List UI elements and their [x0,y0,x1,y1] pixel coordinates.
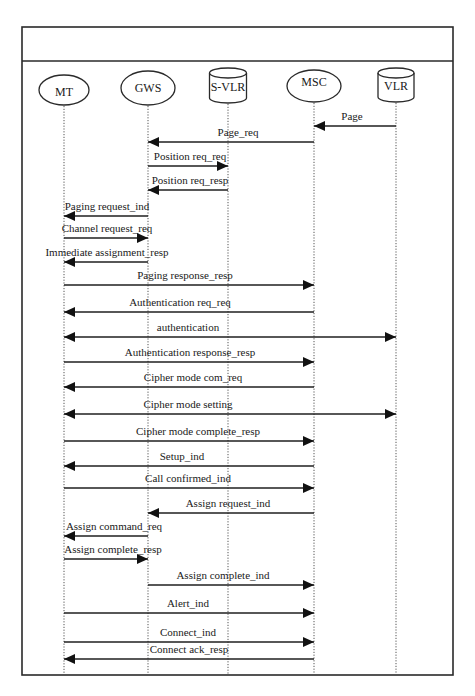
message-label: Channel request_req [62,222,153,234]
message-arrow: Channel request_req [62,222,153,243]
sequence-diagram-canvas: MTGWSS-VLRMSCVLR PagePage_reqPosition re… [0,0,475,696]
message-label: Alert_ind [167,597,210,609]
actor-label: VLR [384,79,408,93]
arrowhead-icon [385,409,396,419]
message-arrow: Paging request_ind [64,200,150,221]
message-arrow: Assign complete_resp [64,543,162,564]
message-label: Cipher mode complete_resp [136,425,261,437]
message-arrow: Authentication response_resp [64,346,314,367]
message-label: Paging request_ind [65,200,150,212]
actor-gws: GWS [121,71,175,105]
message-arrow: Page_req [148,126,314,147]
actors: MTGWSS-VLRMSCVLR [39,68,414,105]
actor-s-vlr: S-VLR [210,68,247,103]
message-arrow: Position req_resp [148,174,229,195]
arrowhead-icon [137,554,148,564]
arrowhead-icon [385,332,396,342]
arrowhead-icon [303,280,314,290]
message-label: Assign complete_resp [64,543,162,555]
message-label: Page_req [218,126,259,138]
message-arrow: Setup_ind [64,450,314,471]
arrowhead-icon [64,332,75,342]
message-label: Position req_resp [152,174,229,186]
actor-label: S-VLR [211,80,246,94]
message-label: Cipher mode com_req [144,371,243,383]
message-label: Assign request_ind [186,497,271,509]
message-arrow: Paging response_resp [64,269,314,290]
sequence-diagram: MTGWSS-VLRMSCVLR PagePage_reqPosition re… [0,0,475,696]
message-arrow: Call confirmed_ind [64,472,314,493]
message-label: Authentication req_req [129,296,231,308]
lifelines [64,103,396,675]
arrowhead-icon [303,357,314,367]
arrowhead-icon [148,137,159,147]
message-arrow: Authentication req_req [64,296,314,317]
message-arrow: Assign request_ind [148,497,314,518]
message-arrow: Alert_ind [64,597,314,618]
arrowhead-icon [64,211,75,221]
messages: PagePage_reqPosition req_reqPosition req… [45,110,396,664]
message-label: Paging response_resp [137,269,233,281]
message-label: authentication [157,321,220,333]
message-label: Setup_ind [160,450,205,462]
message-label: Assign command_req [66,520,163,532]
actor-label: GWS [135,81,162,95]
message-arrow: Page [314,110,396,131]
arrowhead-icon [64,382,75,392]
message-arrow: Cipher mode setting [64,398,396,419]
arrowhead-icon [148,508,159,518]
arrowhead-icon [64,531,75,541]
message-arrow: authentication [64,321,396,342]
arrowhead-icon [64,307,75,317]
arrowhead-icon [148,185,159,195]
message-label: Call confirmed_ind [145,472,231,484]
message-arrow: Connect ack_resp [64,643,314,664]
arrowhead-icon [303,637,314,647]
arrowhead-icon [137,233,148,243]
arrowhead-icon [217,161,228,171]
arrowhead-icon [303,436,314,446]
arrowhead-icon [314,121,325,131]
message-arrow: Cipher mode com_req [64,371,314,392]
actor-label: MSC [301,75,326,89]
message-label: Immediate assignment_resp [45,246,169,258]
arrowhead-icon [303,580,314,590]
arrowhead-icon [64,461,75,471]
message-label: Assign complete_ind [176,569,270,581]
actor-label: MT [55,85,74,99]
message-label: Page [341,110,363,122]
message-arrow: Position req_req [148,150,228,171]
actor-vlr: VLR [378,68,414,102]
message-label: Connect_ind [160,626,217,638]
actor-msc: MSC [287,70,341,102]
message-label: Connect ack_resp [150,643,229,655]
message-arrow: Cipher mode complete_resp [64,425,314,446]
message-label: Cipher mode setting [143,398,233,410]
arrowhead-icon [303,483,314,493]
message-arrow: Assign complete_ind [148,569,314,590]
message-label: Authentication response_resp [125,346,256,358]
actor-mt: MT [39,75,89,105]
message-label: Position req_req [154,150,227,162]
arrowhead-icon [64,257,75,267]
arrowhead-icon [64,654,75,664]
arrowhead-icon [303,608,314,618]
arrowhead-icon [64,409,75,419]
